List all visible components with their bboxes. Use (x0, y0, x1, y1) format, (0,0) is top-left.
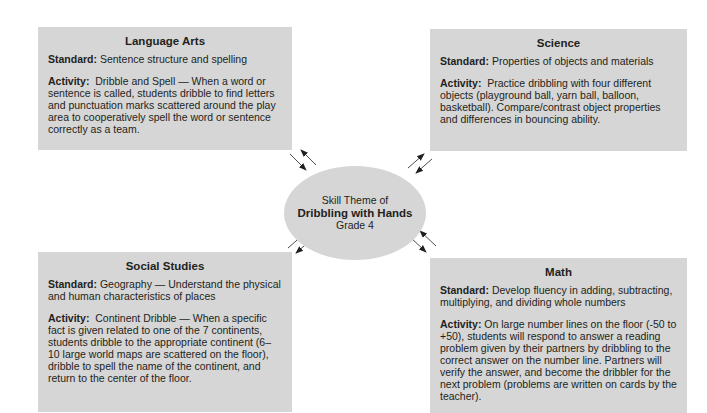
arrow-icon (416, 159, 432, 173)
standard-text: Standard: Properties of objects and mate… (440, 55, 677, 67)
math-box: Math Standard: Develop fluency in adding… (430, 258, 687, 413)
language-arts-box: Language Arts Standard: Sentence structu… (38, 27, 292, 150)
box-title: Social Studies (48, 260, 282, 272)
arrow-icon (408, 154, 424, 168)
standard-value: Sentence structure and spelling (100, 53, 247, 65)
standard-label: Standard: (440, 284, 489, 296)
science-box: Science Standard: Properties of objects … (430, 29, 687, 151)
arrow-icon (420, 231, 436, 246)
standard-text: Standard: Geography — Understand the phy… (48, 278, 282, 302)
standard-label: Standard: (48, 53, 97, 65)
activity-label: Activity: (48, 312, 89, 324)
standard-value: Properties of objects and materials (492, 55, 654, 67)
theme-line-3: Grade 4 (336, 219, 374, 232)
box-title: Math (440, 266, 677, 278)
activity-label: Activity: (440, 77, 481, 89)
social-studies-box: Social Studies Standard: Geography — Und… (38, 252, 292, 412)
arrow-icon (290, 154, 306, 170)
box-title: Science (440, 37, 677, 49)
activity-label: Activity: (48, 75, 89, 87)
activity-text: Activity: Practice dribbling with four d… (440, 77, 677, 125)
theme-line-2: Dribbling with Hands (298, 207, 413, 220)
standard-text: Standard: Develop fluency in adding, sub… (440, 284, 677, 308)
arrow-icon (301, 150, 316, 165)
standard-label: Standard: (440, 55, 489, 67)
box-title: Language Arts (48, 35, 282, 47)
standard-label: Standard: (48, 278, 97, 290)
activity-value: On large number lines on the floor (-50 … (440, 318, 677, 402)
activity-text: Activity: On large number lines on the f… (440, 318, 677, 402)
standard-text: Standard: Sentence structure and spellin… (48, 53, 282, 65)
theme-line-1: Skill Theme of (322, 194, 388, 207)
activity-text: Activity: Dribble and Spell — When a wor… (48, 75, 282, 135)
central-theme-ellipse: Skill Theme of Dribbling with Hands Grad… (284, 166, 426, 260)
activity-text: Activity: Continent Dribble — When a spe… (48, 312, 282, 384)
activity-label: Activity: (440, 318, 481, 330)
